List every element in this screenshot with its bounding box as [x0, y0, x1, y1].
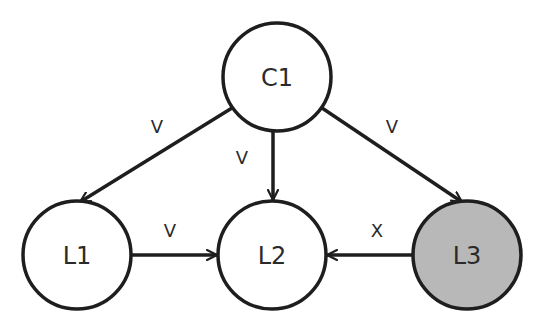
edge-label-l3-l2: X [371, 220, 383, 241]
node-l2-label: L2 [258, 242, 287, 270]
node-l2: L2 [218, 201, 326, 309]
edge-label-c1-l3: V [386, 116, 399, 137]
edge-label-c1-l1: V [151, 116, 164, 137]
edge-label-c1-l2: V [236, 147, 249, 168]
node-l1-label: L1 [63, 242, 92, 270]
node-c1-label: C1 [261, 64, 293, 92]
edge-label-l1-l2: V [164, 220, 177, 241]
graph-canvas: V V V V X C1 L1 L2 L3 [0, 0, 548, 327]
node-l3: L3 [413, 201, 521, 309]
node-l3-label: L3 [453, 242, 482, 270]
node-l1: L1 [23, 201, 131, 309]
node-c1: C1 [223, 23, 331, 131]
